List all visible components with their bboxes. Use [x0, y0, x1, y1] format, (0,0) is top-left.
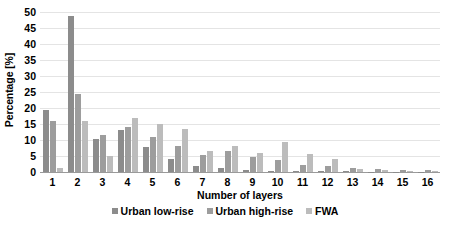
bar	[225, 151, 231, 172]
bar	[125, 127, 131, 172]
y-tick-label: 35	[24, 55, 36, 66]
bar-group	[90, 12, 115, 172]
bar	[432, 171, 438, 172]
bar-group	[190, 12, 215, 172]
x-tick-label: 1	[40, 175, 65, 189]
y-axis-tick-labels: 05101520253035404550	[18, 12, 38, 172]
bar-chart: Percentage [%] 05101520253035404550 1234…	[0, 0, 450, 229]
bar-group	[415, 12, 440, 172]
x-tick-label: 14	[365, 175, 390, 189]
bar-group	[215, 12, 240, 172]
x-tick-label: 3	[90, 175, 115, 189]
y-tick-label: 5	[30, 151, 36, 162]
y-tick-label: 30	[24, 71, 36, 82]
bar	[200, 155, 206, 172]
bar-group	[165, 12, 190, 172]
legend-label: FWA	[315, 205, 338, 217]
x-axis-title: Number of layers	[40, 189, 440, 201]
x-tick-label: 7	[190, 175, 215, 189]
bar-group	[140, 12, 165, 172]
x-tick-label: 5	[140, 175, 165, 189]
y-tick-label: 20	[24, 103, 36, 114]
bar	[425, 170, 431, 172]
legend-label: Urban high-rise	[216, 205, 294, 217]
bar	[118, 130, 124, 172]
bar	[382, 170, 388, 172]
bars-layer	[40, 12, 440, 172]
legend-swatch-icon	[306, 208, 312, 214]
legend-swatch-icon	[112, 208, 118, 214]
y-tick-label: 25	[24, 87, 36, 98]
bar-group	[240, 12, 265, 172]
x-tick-label: 15	[390, 175, 415, 189]
legend-item[interactable]: Urban low-rise	[112, 205, 194, 217]
bar	[182, 129, 188, 172]
bar	[307, 154, 313, 172]
bar	[293, 171, 299, 172]
bar	[375, 169, 381, 172]
legend-label: Urban low-rise	[121, 205, 194, 217]
bar-group	[40, 12, 65, 172]
bar-group	[290, 12, 315, 172]
bar	[243, 170, 249, 172]
bar	[132, 118, 138, 172]
y-tick-label: 50	[24, 7, 36, 18]
bar	[318, 171, 324, 172]
bar	[43, 110, 49, 172]
bar	[400, 170, 406, 172]
bar-group	[390, 12, 415, 172]
bar	[50, 121, 56, 172]
bar	[407, 171, 413, 172]
bar	[168, 159, 174, 172]
bar	[157, 124, 163, 172]
x-tick-label: 9	[240, 175, 265, 189]
bar-group	[315, 12, 340, 172]
bar-group	[365, 12, 390, 172]
bar	[282, 142, 288, 172]
bar	[100, 135, 106, 172]
bar	[68, 16, 74, 172]
bar	[93, 139, 99, 172]
bar	[332, 159, 338, 172]
x-axis-tick-labels: 12345678910111213141516	[40, 175, 440, 189]
bar	[300, 165, 306, 172]
chart-legend: Urban low-riseUrban high-riseFWA	[0, 205, 450, 217]
x-tick-label: 12	[315, 175, 340, 189]
x-tick-label: 4	[115, 175, 140, 189]
y-tick-label: 10	[24, 135, 36, 146]
bar	[325, 166, 331, 172]
plot-area	[40, 12, 440, 173]
legend-item[interactable]: FWA	[306, 205, 338, 217]
bar-group	[340, 12, 365, 172]
bar	[250, 157, 256, 172]
x-tick-label: 10	[265, 175, 290, 189]
bar-group	[65, 12, 90, 172]
bar-group	[265, 12, 290, 172]
y-tick-label: 0	[30, 167, 36, 178]
bar	[75, 94, 81, 172]
bar	[207, 151, 213, 172]
bar	[150, 137, 156, 172]
legend-swatch-icon	[207, 208, 213, 214]
bar	[257, 153, 263, 172]
bar	[232, 146, 238, 172]
bar	[82, 121, 88, 172]
x-tick-label: 2	[65, 175, 90, 189]
bar	[218, 168, 224, 172]
y-axis-title-label: Percentage [%]	[3, 53, 15, 127]
x-tick-label: 6	[165, 175, 190, 189]
bar-group	[115, 12, 140, 172]
bar	[268, 171, 274, 172]
y-tick-label: 15	[24, 119, 36, 130]
legend-item[interactable]: Urban high-rise	[207, 205, 294, 217]
y-tick-label: 40	[24, 39, 36, 50]
x-tick-label: 11	[290, 175, 315, 189]
y-axis-title: Percentage [%]	[0, 0, 18, 180]
y-tick-label: 45	[24, 23, 36, 34]
x-tick-label: 16	[415, 175, 440, 189]
x-tick-label: 8	[215, 175, 240, 189]
bar	[57, 168, 63, 172]
bar	[143, 147, 149, 172]
bar	[343, 171, 349, 172]
x-tick-label: 13	[340, 175, 365, 189]
